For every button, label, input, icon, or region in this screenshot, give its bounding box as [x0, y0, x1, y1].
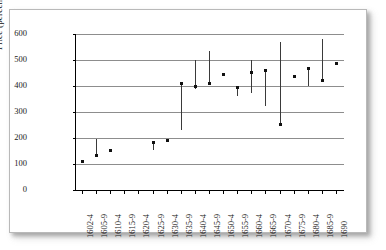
- gridline-500: [76, 60, 344, 61]
- x-tick-label: 1675-9: [298, 214, 307, 238]
- range-bar: [322, 39, 323, 81]
- data-point-marker: [95, 154, 98, 157]
- data-point-marker: [81, 160, 84, 163]
- x-tick-mark: [124, 190, 125, 194]
- gridline-300: [76, 112, 344, 113]
- data-point-marker: [264, 69, 267, 72]
- y-tick-label-100: 100: [0, 159, 27, 168]
- gridline-100: [76, 164, 344, 165]
- data-point-marker: [166, 139, 169, 142]
- data-point-marker: [222, 73, 225, 76]
- y-axis-title: Price (percent of par): [0, 0, 4, 50]
- x-tick-mark: [223, 190, 224, 194]
- gridline-600: [76, 34, 344, 35]
- y-tick-mark-300: [73, 112, 76, 113]
- range-bar: [251, 60, 252, 93]
- x-tick-label: 1660-4: [255, 214, 264, 238]
- x-tick-label: 1645-9: [213, 214, 222, 238]
- x-tick-mark: [110, 190, 111, 194]
- x-tick-mark: [265, 190, 266, 194]
- x-tick-label: 1655-9: [241, 214, 250, 238]
- x-tick-mark: [322, 190, 323, 194]
- data-point-marker: [250, 71, 253, 74]
- y-tick-label-0: 0: [0, 185, 27, 194]
- y-tick-mark-400: [73, 86, 76, 87]
- x-tick-mark: [336, 190, 337, 194]
- x-tick-label: 1640-4: [199, 214, 208, 238]
- x-axis: 1602-41605-91610-41615-91620-41625-91630…: [75, 190, 343, 250]
- data-point-marker: [335, 62, 338, 65]
- x-tick-label: 1665-9: [269, 214, 278, 238]
- range-bar: [209, 51, 210, 83]
- x-tick-mark: [167, 190, 168, 194]
- x-tick-mark: [308, 190, 309, 194]
- range-bar: [181, 83, 182, 130]
- y-tick-mark-200: [73, 138, 76, 139]
- x-tick-label: 1650-4: [227, 214, 236, 238]
- x-tick-mark: [251, 190, 252, 194]
- x-tick-mark: [153, 190, 154, 194]
- x-tick-label: 1690: [340, 221, 349, 238]
- gridline-200: [76, 138, 344, 139]
- y-tick-label-600: 600: [0, 29, 27, 38]
- data-point-marker: [279, 123, 282, 126]
- x-tick-mark: [294, 190, 295, 194]
- x-tick-mark: [195, 190, 196, 194]
- data-point-marker: [109, 149, 112, 152]
- x-tick-label: 1630-4: [171, 214, 180, 238]
- y-tick-label-500: 500: [0, 55, 27, 64]
- x-tick-label: 1615-9: [128, 214, 137, 238]
- data-point-marker: [236, 86, 239, 89]
- range-bar: [280, 42, 281, 125]
- y-tick-mark-500: [73, 60, 76, 61]
- x-tick-mark: [280, 190, 281, 194]
- data-point-marker: [180, 82, 183, 85]
- x-tick-label: 1605-9: [100, 214, 109, 238]
- x-tick-mark: [181, 190, 182, 194]
- x-tick-label: 1680-4: [312, 214, 321, 238]
- data-point-marker: [321, 79, 324, 82]
- x-tick-label: 1610-4: [114, 214, 123, 238]
- gridline-400: [76, 86, 344, 87]
- x-tick-label: 1685-9: [326, 214, 335, 238]
- data-point-marker: [152, 141, 155, 144]
- data-point-marker: [293, 75, 296, 78]
- chart-frame: Price (percent of par) 01002003004005006…: [9, 9, 367, 233]
- y-tick-label-300: 300: [0, 107, 27, 116]
- data-point-marker: [194, 85, 197, 88]
- x-tick-mark: [138, 190, 139, 194]
- data-point-marker: [208, 82, 211, 85]
- x-tick-label: 1625-9: [157, 214, 166, 238]
- range-bar: [308, 68, 309, 86]
- x-tick-mark: [237, 190, 238, 194]
- y-tick-label-200: 200: [0, 133, 27, 142]
- x-tick-label: 1602-4: [86, 214, 95, 238]
- x-tick-mark: [96, 190, 97, 194]
- x-tick-mark: [209, 190, 210, 194]
- y-tick-mark-600: [73, 34, 76, 35]
- x-tick-label: 1635-9: [185, 214, 194, 238]
- x-tick-mark: [82, 190, 83, 194]
- y-tick-label-400: 400: [0, 81, 27, 90]
- x-tick-label: 1620-4: [142, 214, 151, 238]
- range-bar: [265, 69, 266, 106]
- y-tick-mark-100: [73, 164, 76, 165]
- x-tick-label: 1670-4: [284, 214, 293, 238]
- range-bar: [96, 139, 97, 155]
- data-point-marker: [307, 67, 310, 70]
